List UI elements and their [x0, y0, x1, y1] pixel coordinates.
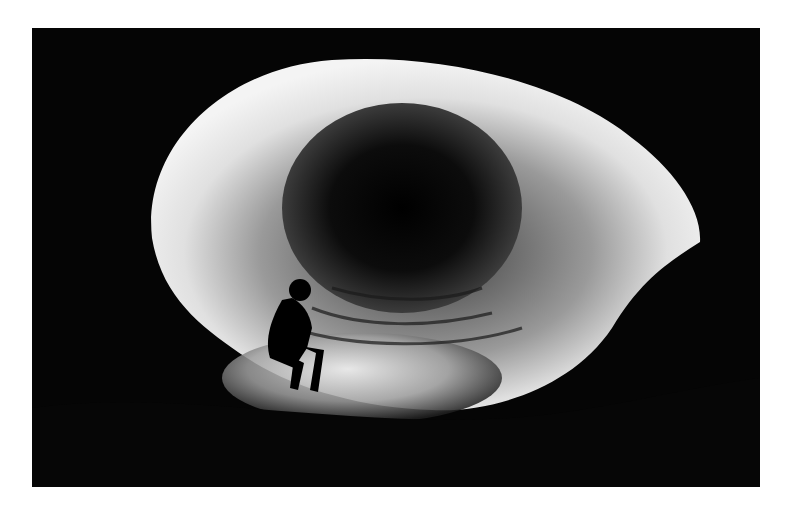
cave-floor: [222, 333, 502, 423]
cave-illustration: [32, 28, 760, 487]
tunnel-opening: [282, 103, 522, 313]
cave-photo: [32, 28, 760, 487]
